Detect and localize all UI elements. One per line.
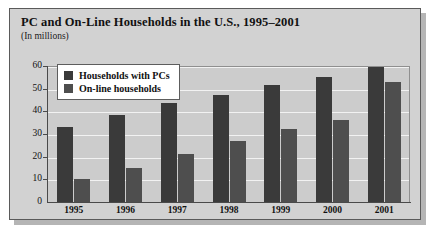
legend-label-pc: Households with PCs bbox=[79, 70, 170, 81]
y-tick-mark bbox=[43, 111, 47, 112]
x-axis-labels: 1995199619971998199920002001 bbox=[48, 205, 410, 221]
bar-group bbox=[316, 67, 349, 202]
x-tick-label: 1996 bbox=[102, 205, 150, 215]
y-tick-label: 60 bbox=[16, 61, 42, 71]
x-tick-label: 1998 bbox=[205, 205, 253, 215]
bar-group bbox=[368, 67, 401, 202]
y-axis-labels: 0102030405060 bbox=[10, 9, 42, 221]
y-tick-label: 0 bbox=[16, 197, 42, 207]
y-tick-label: 10 bbox=[16, 174, 42, 184]
bar-online-households bbox=[178, 154, 194, 202]
y-tick-label: 40 bbox=[16, 106, 42, 116]
legend-swatch-online bbox=[64, 84, 73, 93]
bar-online-households bbox=[333, 120, 349, 202]
bar-online-households bbox=[230, 141, 246, 202]
chart-figure: PC and On-Line Households in the U.S., 1… bbox=[9, 8, 421, 220]
x-tick-label: 2001 bbox=[360, 205, 408, 215]
bar-online-households bbox=[281, 129, 297, 202]
y-tick-mark bbox=[43, 89, 47, 90]
bar-online-households bbox=[74, 179, 90, 202]
legend-item-online: On-line households bbox=[64, 82, 170, 95]
bar-households-with-pcs bbox=[161, 103, 177, 202]
legend-label-online: On-line households bbox=[79, 83, 161, 94]
legend-swatch-pc bbox=[64, 71, 73, 80]
bar-households-with-pcs bbox=[264, 85, 280, 202]
bar-online-households bbox=[126, 168, 142, 202]
y-tick-label: 20 bbox=[16, 152, 42, 162]
chart-legend: Households with PCs On-line households bbox=[57, 64, 180, 100]
bar-households-with-pcs bbox=[316, 77, 332, 202]
chart-title: PC and On-Line Households in the U.S., 1… bbox=[21, 15, 412, 29]
y-tick-label: 50 bbox=[16, 84, 42, 94]
y-tick-mark bbox=[43, 179, 47, 180]
x-tick-label: 2000 bbox=[308, 205, 356, 215]
y-tick-mark bbox=[43, 134, 47, 135]
bar-households-with-pcs bbox=[109, 115, 125, 202]
bar-households-with-pcs bbox=[57, 127, 73, 202]
y-tick-mark bbox=[43, 157, 47, 158]
y-tick-label: 30 bbox=[16, 129, 42, 139]
chart-subtitle: (In millions) bbox=[21, 30, 412, 42]
x-axis-line bbox=[47, 202, 411, 203]
bar-households-with-pcs bbox=[213, 95, 229, 202]
x-tick-label: 1995 bbox=[50, 205, 98, 215]
title-block: PC and On-Line Households in the U.S., 1… bbox=[21, 15, 412, 42]
legend-item-pc: Households with PCs bbox=[64, 69, 170, 82]
bar-households-with-pcs bbox=[368, 67, 384, 202]
x-tick-label: 1999 bbox=[257, 205, 305, 215]
x-tick-label: 1997 bbox=[153, 205, 201, 215]
bar-group bbox=[264, 67, 297, 202]
bar-online-households bbox=[385, 82, 401, 202]
bar-group bbox=[213, 67, 246, 202]
y-tick-mark bbox=[43, 66, 47, 67]
